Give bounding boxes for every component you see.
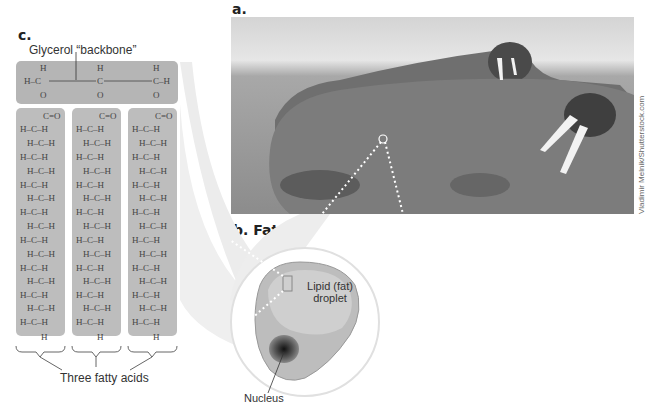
svg-text:H–C–H: H–C–H: [76, 124, 105, 134]
svg-text:O: O: [153, 90, 160, 100]
svg-text:H–C–H: H–C–H: [76, 180, 105, 190]
svg-text:H–C–H: H–C–H: [27, 303, 56, 313]
svg-text:H: H: [40, 63, 47, 73]
svg-text:H–C–H: H–C–H: [20, 317, 49, 327]
svg-text:H: H: [41, 332, 48, 342]
svg-text:H–C–H: H–C–H: [83, 138, 112, 148]
svg-text:H–C–H: H–C–H: [20, 124, 49, 134]
svg-text:H–C–H: H–C–H: [139, 193, 168, 203]
svg-text:H–C–H: H–C–H: [76, 290, 105, 300]
svg-text:C=O: C=O: [155, 111, 173, 121]
svg-text:H–C–H: H–C–H: [20, 290, 49, 300]
svg-text:H–C–H: H–C–H: [139, 276, 168, 286]
svg-text:C=O: C=O: [43, 111, 61, 121]
svg-text:C: C: [97, 76, 103, 86]
svg-text:H–C–H: H–C–H: [83, 303, 112, 313]
svg-text:H–C–H: H–C–H: [132, 180, 161, 190]
photo-credit: Vladimir Melnik/Shutterstock.com: [637, 96, 646, 214]
svg-text:H–C–H: H–C–H: [20, 152, 49, 162]
svg-text:H–C–H: H–C–H: [83, 166, 112, 176]
svg-text:H–C–H: H–C–H: [76, 152, 105, 162]
svg-text:H–C–H: H–C–H: [76, 207, 105, 217]
fat-cell: [231, 248, 379, 396]
svg-text:H–C–H: H–C–H: [132, 207, 161, 217]
svg-text:O: O: [97, 90, 104, 100]
svg-text:H: H: [97, 63, 104, 73]
fatty-acids-label: Three fatty acids: [60, 371, 149, 385]
svg-text:H–C–H: H–C–H: [132, 124, 161, 134]
svg-text:H–C–H: H–C–H: [132, 317, 161, 327]
svg-text:C=O: C=O: [99, 111, 117, 121]
svg-text:H–C–H: H–C–H: [20, 235, 49, 245]
svg-text:H–C–H: H–C–H: [83, 276, 112, 286]
svg-text:H–C–H: H–C–H: [139, 138, 168, 148]
svg-text:H–C–H: H–C–H: [20, 207, 49, 217]
svg-text:H–C–H: H–C–H: [132, 235, 161, 245]
svg-text:H–C–H: H–C–H: [139, 303, 168, 313]
svg-text:H–C–H: H–C–H: [27, 221, 56, 231]
svg-text:H–C–H: H–C–H: [76, 317, 105, 327]
svg-text:H: H: [153, 332, 160, 342]
svg-text:H–C–H: H–C–H: [139, 221, 168, 231]
walrus-photo: [231, 17, 634, 214]
svg-text:H–C–H: H–C–H: [132, 263, 161, 273]
svg-text:H: H: [153, 63, 160, 73]
svg-text:H–C–H: H–C–H: [27, 193, 56, 203]
nucleus: [269, 335, 299, 363]
svg-text:H–C–H: H–C–H: [83, 221, 112, 231]
nucleus-label: Nucleus: [244, 392, 284, 404]
fatty-acid-chains: C=OC=OC=O H–C–HH–C–HH–C–H H–C–HH–C–HH–C–…: [20, 111, 173, 342]
lipid-droplet-label: Lipid (fat) droplet: [300, 280, 360, 304]
diagram-canvas: HHH H–CCC–H OOO C=OC=OC=O H–C–HH–C–HH–C–…: [0, 0, 652, 407]
svg-text:H–C–H: H–C–H: [139, 166, 168, 176]
svg-text:H–C–H: H–C–H: [139, 249, 168, 259]
fatty-acid-brackets: [16, 346, 177, 370]
svg-text:H–C–H: H–C–H: [27, 138, 56, 148]
svg-text:H–C–H: H–C–H: [76, 263, 105, 273]
svg-text:H–C–H: H–C–H: [27, 276, 56, 286]
svg-text:C–H: C–H: [153, 76, 171, 86]
svg-text:H–C: H–C: [24, 76, 41, 86]
svg-text:H–C–H: H–C–H: [27, 249, 56, 259]
svg-text:O: O: [40, 90, 47, 100]
svg-text:H–C–H: H–C–H: [83, 249, 112, 259]
svg-text:H: H: [97, 332, 104, 342]
svg-text:H–C–H: H–C–H: [20, 263, 49, 273]
svg-text:H–C–H: H–C–H: [132, 152, 161, 162]
svg-text:H–C–H: H–C–H: [76, 235, 105, 245]
svg-text:H–C–H: H–C–H: [132, 290, 161, 300]
svg-text:H–C–H: H–C–H: [83, 193, 112, 203]
svg-text:H–C–H: H–C–H: [27, 166, 56, 176]
svg-text:H–C–H: H–C–H: [20, 180, 49, 190]
